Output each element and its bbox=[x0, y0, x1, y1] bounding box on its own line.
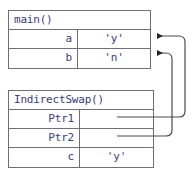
variable-name-ptr2: Ptr2 bbox=[9, 129, 80, 147]
variable-value-ptr1 bbox=[80, 110, 153, 128]
variable-value-b: 'n' bbox=[78, 49, 150, 68]
variable-value-a: 'y' bbox=[78, 30, 150, 48]
stack-frame-indirect-swap: IndirectSwap() Ptr1 Ptr2 c 'y' bbox=[8, 90, 154, 168]
table-row: a 'y' bbox=[9, 30, 150, 49]
table-row: Ptr1 bbox=[9, 110, 153, 129]
stack-frame-main: main() a 'y' b 'n' bbox=[8, 10, 151, 69]
frame-title-main: main() bbox=[9, 11, 150, 30]
frame-title-indirect-swap: IndirectSwap() bbox=[9, 91, 153, 110]
table-row: Ptr2 bbox=[9, 129, 153, 148]
diagram-canvas: main() a 'y' b 'n' IndirectSwap() Ptr1 P… bbox=[0, 0, 192, 171]
variable-name-ptr1: Ptr1 bbox=[9, 110, 80, 128]
table-row: c 'y' bbox=[9, 148, 153, 167]
variable-value-ptr2 bbox=[80, 129, 153, 147]
variable-name-a: a bbox=[9, 30, 78, 48]
variable-name-c: c bbox=[9, 148, 80, 167]
table-row: b 'n' bbox=[9, 49, 150, 68]
variable-value-c: 'y' bbox=[80, 148, 153, 167]
variable-name-b: b bbox=[9, 49, 78, 68]
